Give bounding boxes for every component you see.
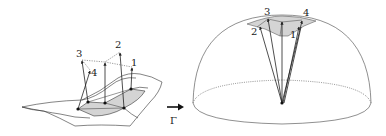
- right-arrow-icon: [167, 104, 184, 111]
- diagram-canvas: [0, 0, 386, 136]
- label-4-right: 4: [303, 8, 309, 18]
- label-3-right: 3: [264, 7, 270, 17]
- label-2-right: 2: [251, 27, 257, 37]
- label-1-left: 1: [131, 58, 137, 68]
- dotted-polygon: [82, 52, 132, 70]
- label-4-left: 4: [91, 68, 97, 78]
- label-1-right: 1: [290, 30, 296, 40]
- label-2-left: 2: [115, 40, 121, 50]
- gamma-symbol: Γ: [170, 116, 177, 126]
- surface-patch: [22, 74, 162, 127]
- label-3-left: 3: [76, 49, 82, 59]
- hemisphere-center-point: [280, 101, 283, 104]
